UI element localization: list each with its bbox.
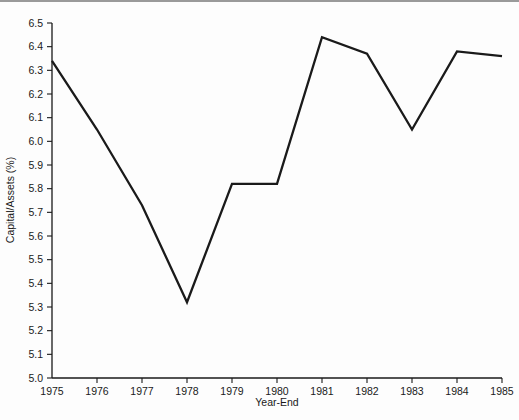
x-tick-label: 1978: [175, 385, 199, 397]
y-tick-label: 5.7: [28, 206, 43, 218]
x-tick-label: 1979: [220, 385, 244, 397]
x-axis-title: Year-End: [255, 396, 299, 408]
x-tick-label: 1975: [40, 385, 64, 397]
x-tick-label: 1982: [355, 385, 379, 397]
y-tick-label: 6.0: [28, 135, 43, 147]
y-tick-label: 5.0: [28, 372, 43, 384]
x-axis-ticks: 1975197619771978197919801981198219831984…: [40, 378, 514, 397]
capital-assets-line-series: [52, 37, 502, 302]
y-axis-title: Capital/Assets (%): [4, 157, 16, 243]
x-tick-label: 1985: [490, 385, 514, 397]
line-chart-canvas: 5.05.15.25.35.45.55.65.75.85.96.06.16.26…: [0, 0, 519, 420]
chart-figure: 5.05.15.25.35.45.55.65.75.85.96.06.16.26…: [0, 0, 519, 420]
y-tick-label: 5.6: [28, 230, 43, 242]
y-tick-label: 5.3: [28, 301, 43, 313]
y-tick-label: 5.9: [28, 159, 43, 171]
y-tick-label: 5.5: [28, 253, 43, 265]
y-tick-label: 6.4: [28, 40, 43, 52]
y-tick-label: 6.3: [28, 64, 43, 76]
x-tick-label: 1977: [130, 385, 154, 397]
y-tick-label: 5.4: [28, 277, 43, 289]
y-axis-ticks: 5.05.15.25.35.45.55.65.75.85.96.06.16.26…: [28, 17, 52, 384]
y-tick-label: 6.5: [28, 17, 43, 29]
y-axis: 5.05.15.25.35.45.55.65.75.85.96.06.16.26…: [28, 17, 52, 384]
y-tick-label: 6.1: [28, 111, 43, 123]
y-tick-label: 5.1: [28, 348, 43, 360]
y-tick-label: 5.8: [28, 182, 43, 194]
x-axis: 1975197619771978197919801981198219831984…: [40, 378, 514, 397]
x-tick-label: 1981: [310, 385, 334, 397]
x-tick-label: 1983: [400, 385, 424, 397]
x-tick-label: 1976: [85, 385, 109, 397]
y-tick-label: 6.2: [28, 88, 43, 100]
y-tick-label: 5.2: [28, 324, 43, 336]
x-tick-label: 1984: [445, 385, 469, 397]
